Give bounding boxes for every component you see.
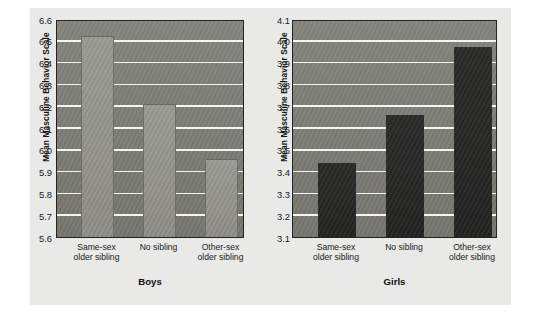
y-tick-label: 5.7 [39, 212, 52, 221]
y-tick-label: 6.1 [39, 125, 52, 134]
bar-series [57, 21, 243, 237]
y-tick-label: 3.2 [277, 212, 290, 221]
y-tick-label: 3.6 [277, 125, 290, 134]
y-tick-label: 6.3 [39, 81, 52, 90]
y-tick-label: 3.9 [277, 59, 290, 68]
chart-panel-boys: Mean Masculine Behavior Scale 6.66.56.46… [12, 0, 248, 297]
y-axis-tick-labels: 6.66.56.46.36.26.16.05.95.85.75.6 [26, 20, 52, 238]
plot-area [292, 20, 497, 238]
bar-series [293, 21, 496, 237]
y-tick-label: 5.9 [39, 168, 52, 177]
y-axis-tick-labels: 4.14.03.93.83.73.63.53.43.33.23.1 [264, 20, 290, 238]
panel-title: Boys [56, 276, 244, 287]
x-axis-tick-labels: Same-sex older siblingNo siblingOther-se… [292, 242, 497, 272]
y-tick-label: 6.0 [39, 146, 52, 155]
plot-area [56, 20, 244, 238]
y-tick-label: 6.6 [39, 16, 52, 25]
x-axis-tick-labels: Same-sex older siblingNo siblingOther-se… [56, 242, 244, 272]
x-tick-label: Other-sex older sibling [370, 242, 541, 263]
y-tick-label: 5.8 [39, 190, 52, 199]
figure-canvas: Mean Masculine Behavior Scale 6.66.56.46… [0, 0, 541, 322]
y-tick-label: 3.7 [277, 103, 290, 112]
bar [205, 159, 238, 237]
bar [81, 36, 114, 237]
y-tick-label: 3.5 [277, 146, 290, 155]
bar [318, 163, 356, 237]
y-tick-label: 6.2 [39, 103, 52, 112]
bar [454, 47, 492, 237]
y-tick-label: 6.4 [39, 59, 52, 68]
y-tick-label: 6.5 [39, 37, 52, 46]
y-tick-label: 3.3 [277, 190, 290, 199]
y-tick-label: 4.0 [277, 37, 290, 46]
y-tick-label: 4.1 [277, 16, 290, 25]
panel-title: Girls [292, 276, 497, 287]
bar [386, 115, 424, 237]
chart-panel-girls: Mean Masculine Behavior Scale 4.14.03.93… [252, 0, 480, 297]
bar [143, 104, 176, 237]
y-tick-label: 3.8 [277, 81, 290, 90]
y-tick-label: 3.4 [277, 168, 290, 177]
